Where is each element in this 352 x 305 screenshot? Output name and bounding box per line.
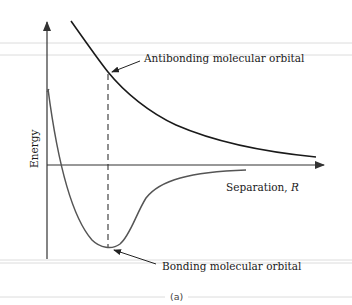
x-axis-label: Separation, R bbox=[226, 181, 299, 193]
figure-caption: (a) bbox=[170, 291, 183, 302]
x-axis-label-text: Separation, bbox=[226, 181, 291, 193]
antibonding-arrow bbox=[112, 61, 140, 72]
bonding-curve bbox=[48, 89, 246, 247]
page-rule-lines bbox=[0, 43, 352, 297]
y-axis-label: Energy bbox=[28, 130, 40, 168]
molecular-orbital-energy-diagram: Antibonding molecular orbital Bonding mo… bbox=[0, 0, 352, 305]
bonding-label: Bonding molecular orbital bbox=[162, 260, 302, 272]
antibonding-label: Antibonding molecular orbital bbox=[143, 52, 305, 64]
bonding-arrow bbox=[114, 250, 156, 264]
x-axis-symbol: R bbox=[290, 181, 299, 193]
